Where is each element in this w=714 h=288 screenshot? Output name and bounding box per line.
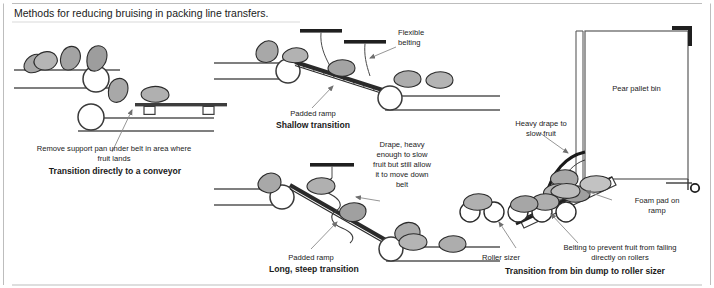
drape-bar <box>310 163 354 167</box>
caption-panel-shallow: Shallow transition <box>248 120 378 130</box>
label-foam-pad-line2: ramp <box>614 206 700 215</box>
leader-padded-ramp-shallow <box>312 86 333 108</box>
label-drape-note-line1: Drape, heavy <box>356 140 448 149</box>
leader-flexible-belting <box>370 47 396 58</box>
heavy-drape-steep <box>310 163 354 243</box>
label-flexible-belting-line2: belting <box>398 38 420 47</box>
panel-shallow-art <box>214 29 500 110</box>
support-pan-leg-left <box>144 106 155 114</box>
label-belting-prevent-line1: Belting to prevent fruit from falling <box>537 243 703 252</box>
label-belting-prevent-line2: directly on rollers <box>537 253 703 262</box>
bin-pivot-wheel <box>691 184 699 192</box>
roller-5 <box>556 202 576 222</box>
panel-conveyor-art <box>14 46 227 152</box>
panel-bin-dump-art <box>460 28 699 248</box>
label-roller-sizer: Roller sizer <box>466 253 536 262</box>
flap-curtain-left <box>321 33 330 66</box>
label-padded-ramp-steep: Padded ramp <box>256 253 366 262</box>
label-heavy-drape-line1: Heavy drape to <box>494 119 588 128</box>
flap-bar-left <box>300 29 342 33</box>
label-remove-support-pan-line1: Remove support pan under belt in area wh… <box>14 144 214 153</box>
label-heavy-drape-line2: slow fruit <box>494 129 588 138</box>
label-drape-note-line5: belt <box>356 180 448 189</box>
fruit-group-falling <box>108 78 169 102</box>
caption-panel-steep: Long, steep transition <box>244 264 384 274</box>
flap-bar-right <box>344 40 386 44</box>
label-foam-pad-line1: Foam pad on <box>614 196 700 205</box>
label-remove-support-pan-line2: fruit lands <box>14 154 214 163</box>
label-padded-ramp-shallow: Padded ramp <box>258 109 368 118</box>
label-pear-pallet-bin: Pear pallet bin <box>585 84 688 93</box>
pear-pallet-bin-box <box>585 31 688 179</box>
label-drape-note-line2: enough to slow <box>356 150 448 159</box>
fruit-group-bin-dump <box>464 170 612 212</box>
page-title: Methods for reducing bruising in packing… <box>14 7 268 19</box>
caption-panel-bin-dump: Transition from bin dump to roller sizer <box>470 266 700 276</box>
lower-belt-pulley <box>78 104 104 130</box>
flap-curtain-right <box>365 44 370 76</box>
label-drape-note-line3: fruit but still allow <box>350 160 454 169</box>
label-drape-note-line4: it to move down <box>354 170 450 179</box>
leader-padded-ramp-steep <box>311 222 337 249</box>
support-pan-leg-right <box>203 106 214 114</box>
leader-roller-sizer <box>499 222 516 248</box>
diagram-root: Methods for reducing bruising in packing… <box>0 0 714 288</box>
shallow-lower-pulley <box>378 86 402 110</box>
label-flexible-belting-line1: Flexible <box>398 28 424 37</box>
caption-panel-conveyor: Transition directly to a conveyor <box>10 166 220 176</box>
leader-drape-note <box>356 197 380 201</box>
